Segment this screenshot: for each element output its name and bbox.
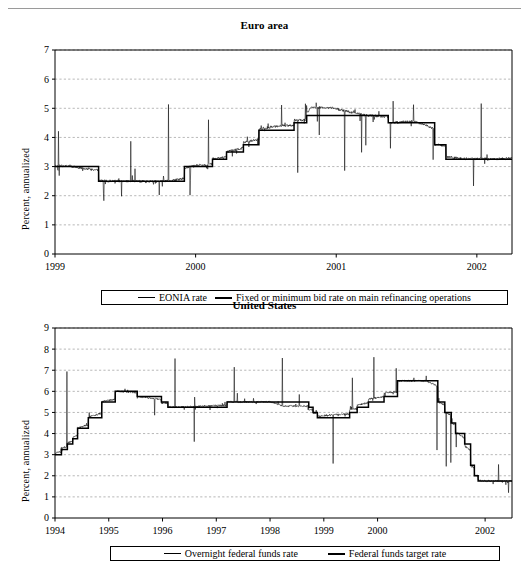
y-tick-label: 6 xyxy=(44,74,49,85)
x-tick-label: 1994 xyxy=(45,525,65,536)
chart-panel-united-states: United States Percent, annualized 012345… xyxy=(0,298,529,566)
y-tick-label: 5 xyxy=(44,103,49,114)
y-tick-label: 5 xyxy=(44,407,49,418)
x-tick-label: 1999 xyxy=(45,261,65,272)
legend-label-overnight-ff: Overnight federal funds rate xyxy=(185,548,298,559)
y-tick-label: 0 xyxy=(44,248,49,259)
page-top-rule xyxy=(8,8,521,9)
y-axis-label-euro-area: Percent, annualized xyxy=(20,148,31,230)
y-tick-label: 6 xyxy=(44,386,49,397)
y-tick-label: 2 xyxy=(44,190,49,201)
x-tick-label: 1999 xyxy=(314,525,334,536)
y-tick-label: 4 xyxy=(44,132,49,143)
plot-area-euro-area: Percent, annualized 01234567199920002001… xyxy=(0,32,529,272)
y-axis-label-united-states: Percent, annualized xyxy=(20,420,31,502)
chart-title-euro-area: Euro area xyxy=(0,18,529,32)
series-line-federal-funds-target-rate xyxy=(55,381,512,481)
chart-title-united-states: United States xyxy=(0,298,529,312)
x-tick-label: 1996 xyxy=(153,525,173,536)
x-tick-label: 1997 xyxy=(206,525,226,536)
y-tick-label: 9 xyxy=(44,322,49,333)
y-tick-label: 3 xyxy=(44,449,49,460)
x-tick-label: 1998 xyxy=(260,525,280,536)
legend-entry-ff-target: Federal funds target rate xyxy=(324,548,450,559)
y-tick-label: 0 xyxy=(44,512,49,523)
x-tick-label: 2002 xyxy=(475,525,495,536)
plot-area-united-states: Percent, annualized 01234567891994199519… xyxy=(0,312,529,540)
y-tick-label: 1 xyxy=(44,219,49,230)
series-line-eonia-rate xyxy=(55,101,512,201)
y-tick-label: 1 xyxy=(44,491,49,502)
y-tick-label: 8 xyxy=(44,344,49,355)
x-tick-label: 2001 xyxy=(326,261,346,272)
y-tick-label: 7 xyxy=(44,44,49,55)
x-tick-label: 2000 xyxy=(368,525,388,536)
series-line-overnight-federal-funds-rate xyxy=(55,357,512,493)
legend-swatch-line-icon xyxy=(328,553,345,555)
y-tick-label: 7 xyxy=(44,365,49,376)
legend-united-states: Overnight federal funds rate Federal fun… xyxy=(110,546,500,561)
y-tick-label: 3 xyxy=(44,161,49,172)
x-tick-label: 1995 xyxy=(99,525,119,536)
chart-svg-euro-area: 012345671999200020012002 xyxy=(0,32,529,272)
chart-panel-euro-area: Euro area Percent, annualized 0123456719… xyxy=(0,18,529,298)
legend-swatch-line-icon xyxy=(164,553,181,554)
x-tick-label: 2000 xyxy=(186,261,206,272)
chart-svg-united-states: 0123456789199419951996199719981999200020… xyxy=(0,312,529,540)
legend-entry-overnight-ff: Overnight federal funds rate xyxy=(160,548,324,559)
y-tick-label: 4 xyxy=(44,428,49,439)
y-tick-label: 2 xyxy=(44,470,49,481)
legend-label-ff-target: Federal funds target rate xyxy=(349,548,446,559)
x-tick-label: 2002 xyxy=(467,261,487,272)
